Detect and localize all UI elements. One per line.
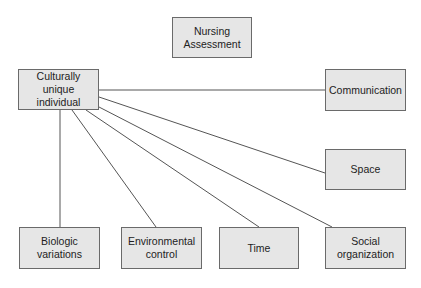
nursing-assessment-node: Nursing Assessment <box>172 17 252 58</box>
time-node: Time <box>219 227 299 269</box>
culturally-unique-individual-label: Culturally unique individual <box>37 70 81 109</box>
edge-to-social <box>99 107 332 227</box>
biologic-variations-node: Biologic variations <box>19 227 100 269</box>
culturally-unique-individual-node: Culturally unique individual <box>18 69 99 110</box>
environmental-control-label: Environmental control <box>128 235 195 261</box>
diagram-canvas: Nursing Assessment Culturally unique ind… <box>0 0 421 288</box>
environmental-control-node: Environmental control <box>121 227 202 269</box>
communication-label: Communication <box>329 84 402 97</box>
social-organization-node: Social organization <box>325 227 406 269</box>
nursing-assessment-label: Nursing Assessment <box>183 25 240 51</box>
social-organization-label: Social organization <box>337 235 394 261</box>
edge-to-time <box>86 110 259 227</box>
edge-to-environmental <box>72 110 156 227</box>
communication-node: Communication <box>325 69 406 111</box>
edge-to-space <box>99 97 325 173</box>
space-label: Space <box>351 163 381 176</box>
space-node: Space <box>325 149 406 190</box>
biologic-variations-label: Biologic variations <box>37 235 82 261</box>
time-label: Time <box>248 242 271 255</box>
